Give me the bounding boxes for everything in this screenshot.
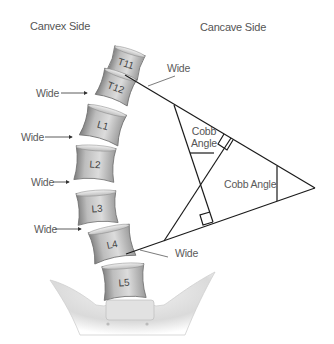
upper-endplate-line	[125, 75, 315, 188]
vertebra-l3: L3	[76, 189, 118, 226]
vertebra-label: L3	[91, 203, 103, 215]
vertebra-l5: L5	[102, 262, 146, 301]
wide-label-bottom-right: Wide	[175, 248, 198, 259]
right-angle-marker-lower	[200, 212, 213, 225]
wide-label-left-1: Wide	[36, 88, 59, 99]
concave-side-header: Cancave Side	[200, 22, 266, 33]
vertebra-label: L2	[89, 159, 101, 171]
vertebra-l2: L2	[74, 144, 116, 183]
wide-label-left-3: Wide	[31, 177, 54, 188]
wide-label-left-4: Wide	[34, 224, 57, 235]
right-angle-marker-upper	[218, 134, 233, 150]
cobb-construction-lines	[125, 75, 315, 254]
cobb-angle-inner-line2: Angle	[189, 137, 219, 149]
cobb-angle-outer-label: Cobb Angle	[224, 179, 276, 190]
cobb-angle-diagram: T11 T12 L1 L2 L3 L4	[0, 0, 334, 344]
convex-side-header: Canvex Side	[30, 21, 90, 32]
diagram-graphics: T11 T12 L1 L2 L3 L4	[0, 0, 334, 344]
vertebra-label: L5	[118, 277, 130, 289]
cobb-angle-inner-label: Cobb Angle	[189, 125, 219, 149]
wide-label-top-right: Wide	[167, 63, 190, 74]
lower-endplate-line	[126, 188, 315, 254]
cobb-angle-inner-line1: Cobb	[189, 125, 219, 137]
vertebra-l4: L4	[88, 222, 136, 264]
vertebra-l1: L1	[79, 102, 127, 146]
wide-label-left-2: Wide	[21, 132, 44, 143]
perpendicular-upper	[174, 105, 213, 222]
wide-leaders-right	[140, 76, 175, 257]
